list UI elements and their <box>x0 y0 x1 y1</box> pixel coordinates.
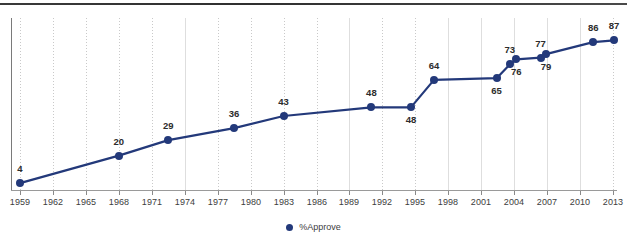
data-point-label: 20 <box>114 136 125 147</box>
data-point-label: 64 <box>429 60 440 71</box>
chart-legend: %Approve <box>0 222 627 232</box>
gridline <box>448 18 449 190</box>
data-point-label: 87 <box>609 20 620 31</box>
data-point-marker[interactable] <box>407 103 415 111</box>
data-point-label: 73 <box>504 44 515 55</box>
data-point-marker[interactable] <box>164 136 172 144</box>
x-axis-tick <box>53 191 54 195</box>
x-axis-tick-label: 1989 <box>339 197 359 207</box>
data-point-label: 4 <box>17 163 22 174</box>
x-axis-tick <box>20 191 21 195</box>
gridline <box>547 18 548 190</box>
data-point-label: 43 <box>278 96 289 107</box>
x-axis-tick <box>349 191 350 195</box>
data-point-marker[interactable] <box>430 76 438 84</box>
x-axis-tick-label: 1974 <box>175 197 195 207</box>
gridline <box>382 18 383 190</box>
x-axis-tick-label: 2013 <box>603 197 623 207</box>
x-axis-tick-label: 2001 <box>471 197 491 207</box>
x-axis-tick-label: 1959 <box>10 197 30 207</box>
data-point-marker[interactable] <box>367 103 375 111</box>
gridline <box>580 18 581 190</box>
gridline <box>119 18 120 190</box>
data-point-marker[interactable] <box>589 38 597 46</box>
legend-marker-icon <box>286 224 293 231</box>
data-point-label: 48 <box>366 87 377 98</box>
data-point-marker[interactable] <box>230 124 238 132</box>
data-point-label: 48 <box>406 114 417 125</box>
x-axis-tick-label: 1980 <box>241 197 261 207</box>
x-axis-tick <box>481 191 482 195</box>
x-axis-tick-label: 1992 <box>372 197 392 207</box>
data-point-marker[interactable] <box>115 152 123 160</box>
x-axis-tick <box>284 191 285 195</box>
data-point-label: 79 <box>541 61 552 72</box>
data-point-marker[interactable] <box>16 179 24 187</box>
x-axis-tick <box>317 191 318 195</box>
data-point-label: 65 <box>491 85 502 96</box>
gridline <box>415 18 416 190</box>
x-axis-tick-label: 1983 <box>274 197 294 207</box>
x-axis-tick <box>86 191 87 195</box>
x-axis-tick <box>514 191 515 195</box>
top-divider <box>0 3 627 5</box>
data-point-marker[interactable] <box>280 112 288 120</box>
data-point-label: 77 <box>535 38 546 49</box>
data-point-marker[interactable] <box>493 74 501 82</box>
x-axis-tick-label: 1995 <box>405 197 425 207</box>
gridline <box>185 18 186 190</box>
x-axis-tick-label: 1986 <box>307 197 327 207</box>
x-axis-tick <box>448 191 449 195</box>
x-axis-baseline <box>11 190 617 191</box>
gridline <box>218 18 219 190</box>
x-axis-tick-label: 2007 <box>537 197 557 207</box>
gridline <box>53 18 54 190</box>
x-axis-tick-label: 1968 <box>109 197 129 207</box>
x-axis-tick-label: 2004 <box>504 197 524 207</box>
x-axis-tick-label: 2010 <box>570 197 590 207</box>
x-axis-tick <box>382 191 383 195</box>
x-axis-tick <box>547 191 548 195</box>
x-axis-tick-label: 1971 <box>142 197 162 207</box>
x-axis-tick <box>613 191 614 195</box>
x-axis-tick <box>185 191 186 195</box>
x-axis-tick <box>218 191 219 195</box>
data-point-marker[interactable] <box>512 55 520 63</box>
chart-container: 1959196219651968197119741977198019831986… <box>0 0 627 241</box>
data-point-label: 76 <box>511 66 522 77</box>
x-axis-tick <box>152 191 153 195</box>
x-axis-tick-label: 1965 <box>76 197 96 207</box>
gridline <box>349 18 350 190</box>
x-axis-tick <box>251 191 252 195</box>
x-axis-tick <box>580 191 581 195</box>
data-point-marker[interactable] <box>610 36 618 44</box>
data-point-label: 86 <box>588 22 599 33</box>
x-axis-tick <box>119 191 120 195</box>
x-axis-tick-label: 1998 <box>438 197 458 207</box>
gridline <box>481 18 482 190</box>
y-axis-line <box>11 18 12 191</box>
x-axis-tick-label: 1977 <box>208 197 228 207</box>
x-axis-tick <box>415 191 416 195</box>
gridline <box>152 18 153 190</box>
data-point-label: 36 <box>229 108 240 119</box>
gridline <box>86 18 87 190</box>
x-axis-tick-label: 1962 <box>43 197 63 207</box>
gridline <box>317 18 318 190</box>
data-point-marker[interactable] <box>542 50 550 58</box>
data-point-label: 29 <box>163 120 174 131</box>
gridline <box>251 18 252 190</box>
legend-label-approve: %Approve <box>299 222 341 232</box>
